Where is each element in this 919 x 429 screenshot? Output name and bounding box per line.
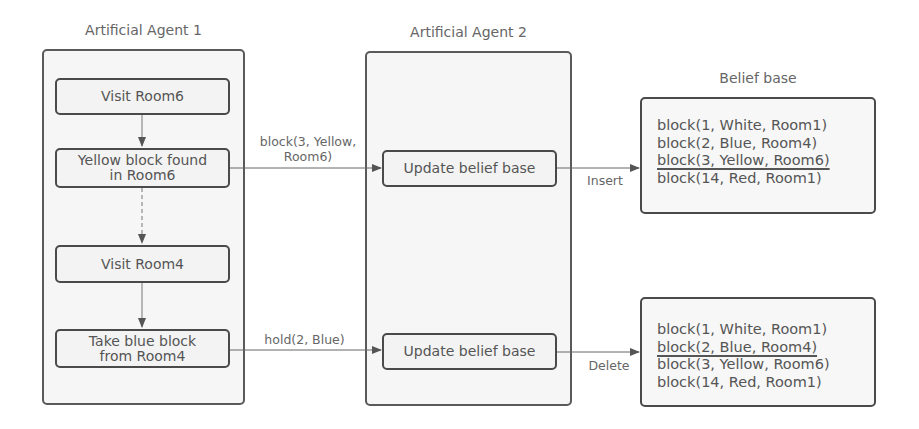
belief-row: block(14, Red, Room1) xyxy=(657,170,874,188)
step-update-belief-base-delete: Update belief base xyxy=(382,333,557,370)
operation-insert-label: Insert xyxy=(580,173,630,188)
belief-row-deleted: block(2, Blue, Room4) xyxy=(657,339,874,357)
belief-row: block(2, Blue, Room4) xyxy=(657,135,874,153)
step-label-line2: in Room6 xyxy=(110,168,176,183)
belief-row: block(1, White, Room1) xyxy=(657,117,874,135)
step-take-blue-block: Take blue block from Room4 xyxy=(55,329,230,368)
step-label: Visit Room4 xyxy=(101,257,184,272)
belief-row: block(1, White, Room1) xyxy=(657,321,874,339)
step-visit-room4: Visit Room4 xyxy=(55,245,230,283)
operation-delete-label: Delete xyxy=(582,358,636,373)
step-yellow-block-found: Yellow block found in Room6 xyxy=(55,148,230,188)
step-label: Update belief base xyxy=(404,344,536,359)
belief-base-delete: block(1, White, Room1) block(2, Blue, Ro… xyxy=(640,297,876,407)
step-label: Visit Room6 xyxy=(101,89,184,104)
message-block-label: block(3, Yellow, Room6) xyxy=(248,134,368,164)
belief-row: block(14, Red, Room1) xyxy=(657,374,874,392)
step-label-line1: Yellow block found xyxy=(78,153,207,168)
belief-row-inserted: block(3, Yellow, Room6) xyxy=(657,152,874,170)
belief-row: block(3, Yellow, Room6) xyxy=(657,356,874,374)
step-update-belief-base-insert: Update belief base xyxy=(382,150,557,187)
step-visit-room6: Visit Room6 xyxy=(55,78,230,115)
belief-base-insert: block(1, White, Room1) block(2, Blue, Ro… xyxy=(640,97,876,214)
step-label-line2: from Room4 xyxy=(100,349,186,364)
step-label: Update belief base xyxy=(404,161,536,176)
step-label-line1: Take blue block xyxy=(89,334,196,349)
message-hold-label: hold(2, Blue) xyxy=(252,332,357,347)
